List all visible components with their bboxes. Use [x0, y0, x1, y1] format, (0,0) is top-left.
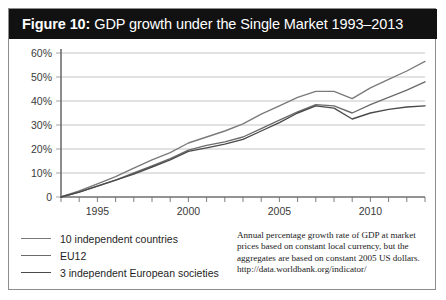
figure-container: Figure 10: GDP growth under the Single M…: [8, 8, 436, 290]
data-series-lines: [61, 61, 425, 197]
chart-legend: 10 independent countries EU12 3 independ…: [21, 231, 236, 282]
legend-item-label: 10 independent countries: [60, 233, 178, 245]
y-axis-labels: 010%20%30%40%50%60%: [31, 47, 52, 203]
figure-title-bar: Figure 10: GDP growth under the Single M…: [9, 9, 437, 39]
legend-line-swatch: [21, 255, 51, 256]
legend-line-swatch: [21, 238, 51, 239]
legend-item-label: EU12: [60, 250, 86, 262]
legend-item-label: 3 independent European societies: [60, 267, 219, 279]
svg-text:0: 0: [46, 191, 52, 203]
x-axis-labels: 1995200020052010: [86, 205, 383, 217]
svg-text:50%: 50%: [31, 71, 52, 83]
svg-text:30%: 30%: [31, 119, 52, 131]
series-line: [61, 106, 425, 197]
figure-title-text: GDP growth under the Single Market 1993–…: [94, 16, 403, 32]
legend-item: EU12: [21, 248, 236, 263]
svg-text:10%: 10%: [31, 167, 52, 179]
series-line: [61, 61, 425, 197]
svg-text:2010: 2010: [359, 205, 383, 217]
svg-text:60%: 60%: [31, 47, 52, 59]
source-note-url[interactable]: http://data.worldbank.org/indicator/: [237, 264, 429, 275]
source-note: Annual percentage growth rate of GDP at …: [237, 230, 429, 276]
figure-number-label: Figure 10:: [22, 16, 90, 32]
svg-text:1995: 1995: [86, 205, 110, 217]
svg-text:40%: 40%: [31, 95, 52, 107]
line-chart-svg: 010%20%30%40%50%60% 1995200020052010: [9, 39, 437, 229]
svg-text:2005: 2005: [268, 205, 292, 217]
chart-plot-area: 010%20%30%40%50%60% 1995200020052010: [9, 39, 437, 229]
svg-text:2000: 2000: [177, 205, 201, 217]
source-note-text: Annual percentage growth rate of GDP at …: [237, 230, 420, 263]
svg-text:20%: 20%: [31, 143, 52, 155]
legend-line-swatch: [21, 272, 51, 273]
legend-item: 10 independent countries: [21, 231, 236, 246]
legend-item: 3 independent European societies: [21, 265, 236, 280]
